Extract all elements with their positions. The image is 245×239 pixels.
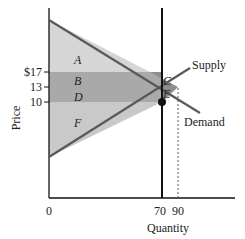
y-tick-label-10: 10 xyxy=(30,95,42,109)
x-tick-label-90: 90 xyxy=(172,204,184,218)
region-c-label: C xyxy=(163,74,172,88)
region-b-label: B xyxy=(74,74,82,88)
region-f xyxy=(49,102,162,157)
region-a xyxy=(49,20,150,72)
x-tick-label-0: 0 xyxy=(46,204,52,218)
surplus-chart: $17 13 10 0 70 90 Quantity Price Supply … xyxy=(0,0,245,239)
y-axis-label: Price xyxy=(9,106,23,131)
x-tick-label-70: 70 xyxy=(154,204,166,218)
region-e-label: E xyxy=(162,87,171,101)
region-f-label: F xyxy=(73,116,82,130)
region-a-label: A xyxy=(73,53,82,67)
demand-label: Demand xyxy=(184,115,225,129)
region-d-label: D xyxy=(73,90,83,104)
x-axis-label: Quantity xyxy=(147,221,189,235)
y-tick-label-13: 13 xyxy=(30,80,42,94)
supply-label: Supply xyxy=(192,58,226,72)
region-d xyxy=(49,87,162,102)
y-tick-label-17: $17 xyxy=(24,65,42,79)
